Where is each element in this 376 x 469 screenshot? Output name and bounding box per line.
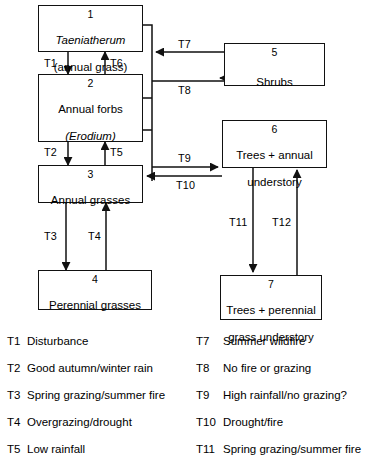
node-3-label-line1: Annual grasses bbox=[51, 194, 130, 206]
node-6-number: 6 bbox=[271, 123, 277, 135]
legend-description: Summer wildfire bbox=[223, 334, 305, 348]
edge-label-t3: T3 bbox=[44, 230, 57, 242]
legend-code: T8 bbox=[196, 361, 223, 375]
legend-code: T3 bbox=[7, 388, 27, 402]
node-2-number: 2 bbox=[87, 77, 93, 89]
legend-description: Spring grazing/summer fire bbox=[223, 442, 361, 456]
node-5-label: Shrubs bbox=[256, 62, 292, 89]
edge-label-t2: T2 bbox=[44, 146, 57, 158]
legend-code: T11 bbox=[196, 442, 223, 456]
legend-code: T2 bbox=[7, 361, 27, 375]
edge-label-t9: T9 bbox=[178, 152, 191, 164]
node-1-number: 1 bbox=[87, 8, 93, 20]
edge-label-t4: T4 bbox=[88, 230, 101, 242]
node-box-3[interactable]: 3 Annual grasses bbox=[38, 165, 143, 203]
connector-bus-right bbox=[143, 25, 152, 181]
legend-row: T9 High rainfall/no grazing? bbox=[196, 388, 376, 415]
node-6-label: Trees + annual understory bbox=[236, 135, 313, 189]
legend-description: Disturbance bbox=[27, 334, 88, 348]
node-4-label: Perennial grasses bbox=[49, 285, 141, 312]
legend-row: T11 Spring grazing/summer fire bbox=[196, 442, 376, 469]
node-2-label-line2: (Erodium) bbox=[65, 130, 115, 142]
legend-row: T10 Drought/fire bbox=[196, 415, 376, 442]
legend-row: T8 No fire or grazing bbox=[196, 361, 376, 388]
legend-row: T2 Good autumn/winter rain bbox=[7, 361, 197, 388]
legend-row: T7 Summer wildfire bbox=[196, 334, 376, 361]
node-6-label-line2: understory bbox=[247, 176, 301, 188]
node-2-label: Annual forbs (Erodium) bbox=[58, 89, 123, 143]
legend-row: T1 Disturbance bbox=[7, 334, 197, 361]
node-box-2[interactable]: 2 Annual forbs (Erodium) bbox=[38, 74, 143, 142]
edge-label-t5: T5 bbox=[110, 146, 123, 158]
legend-description: Low rainfall bbox=[27, 442, 85, 456]
node-box-7[interactable]: 7 Trees + perennial grass understory bbox=[220, 275, 322, 320]
legend-code: T9 bbox=[196, 388, 223, 402]
legend-left-column: T1 Disturbance T2 Good autumn/winter rai… bbox=[7, 334, 197, 469]
edge-label-t11: T11 bbox=[229, 216, 247, 228]
node-1-label-line1: Taeniatherum bbox=[56, 34, 126, 46]
node-box-4[interactable]: 4 Perennial grasses bbox=[38, 270, 152, 310]
legend-description: Drought/fire bbox=[223, 415, 283, 429]
diagram-canvas: 1 Taeniatherum (annual grass) 2 Annual f… bbox=[0, 0, 376, 469]
edge-label-t1: T1 bbox=[44, 57, 57, 69]
node-box-5[interactable]: 5 Shrubs bbox=[224, 43, 325, 86]
legend-right-column: T7 Summer wildfire T8 No fire or grazing… bbox=[196, 334, 376, 469]
edge-label-t7: T7 bbox=[178, 38, 191, 50]
legend-description: Overgrazing/drought bbox=[27, 415, 132, 429]
node-2-label-line1: Annual forbs bbox=[58, 103, 123, 115]
legend: T1 Disturbance T2 Good autumn/winter rai… bbox=[0, 334, 376, 469]
legend-description: Spring grazing/summer fire bbox=[27, 388, 165, 402]
node-5-number: 5 bbox=[271, 46, 277, 58]
node-box-6[interactable]: 6 Trees + annual understory bbox=[222, 120, 327, 168]
edge-label-t8: T8 bbox=[178, 84, 191, 96]
legend-description: No fire or grazing bbox=[223, 361, 311, 375]
legend-description: Good autumn/winter rain bbox=[27, 361, 153, 375]
node-5-label-line1: Shrubs bbox=[256, 76, 292, 88]
node-4-label-line1: Perennial grasses bbox=[49, 299, 141, 311]
node-box-1[interactable]: 1 Taeniatherum (annual grass) bbox=[38, 5, 143, 52]
node-7-number: 7 bbox=[268, 278, 274, 290]
node-6-label-line1: Trees + annual bbox=[236, 149, 313, 161]
legend-code: T10 bbox=[196, 415, 223, 429]
legend-code: T7 bbox=[196, 334, 223, 348]
edge-label-t12: T12 bbox=[272, 216, 291, 228]
edge-label-t10: T10 bbox=[176, 179, 195, 191]
legend-row: T3 Spring grazing/summer fire bbox=[7, 388, 197, 415]
node-3-label: Annual grasses bbox=[51, 180, 130, 207]
legend-description: High rainfall/no grazing? bbox=[223, 388, 347, 402]
legend-code: T1 bbox=[7, 334, 27, 348]
legend-code: T5 bbox=[7, 442, 27, 456]
edge-label-t6: T6 bbox=[110, 57, 123, 69]
legend-row: T4 Overgrazing/drought bbox=[7, 415, 197, 442]
legend-code: T4 bbox=[7, 415, 27, 429]
node-7-label-line1: Trees + perennial bbox=[226, 304, 315, 316]
node-3-number: 3 bbox=[87, 168, 93, 180]
legend-row: T5 Low rainfall bbox=[7, 442, 197, 469]
node-4-number: 4 bbox=[92, 273, 98, 285]
